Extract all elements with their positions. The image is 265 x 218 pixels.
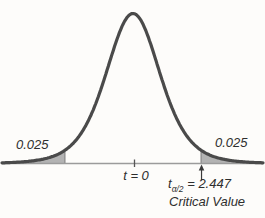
critical-value-caption: Critical Value bbox=[169, 195, 245, 208]
critical-value-arrow-head bbox=[199, 165, 205, 171]
t-distribution-figure: 0.025 0.025 t = 0 tα/2 = 2.447 Critical … bbox=[0, 0, 265, 218]
critical-value-subscript: α/2 bbox=[172, 184, 184, 194]
axis-center-label: t = 0 bbox=[118, 169, 154, 182]
critical-value-label: tα/2 = 2.447 bbox=[168, 177, 231, 190]
critical-value-equation: = 2.447 bbox=[184, 176, 231, 191]
left-tail-area-label: 0.025 bbox=[16, 138, 49, 151]
right-tail-area-label: 0.025 bbox=[215, 136, 248, 149]
